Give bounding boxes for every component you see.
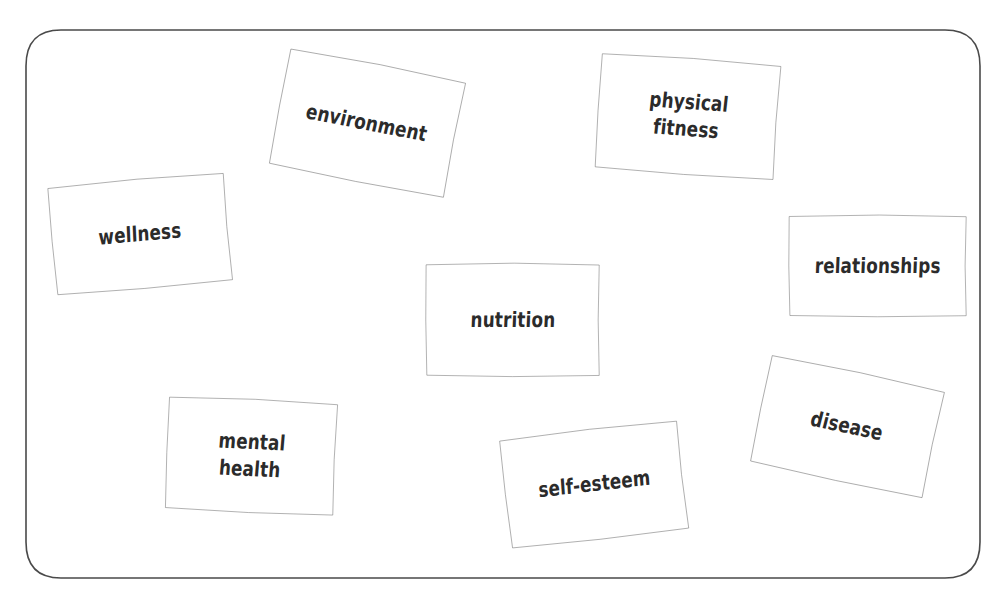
- node-label: relationships: [814, 254, 941, 278]
- node-environment[interactable]: environment: [266, 46, 468, 200]
- node-physical-fitness[interactable]: physical fitness: [592, 51, 783, 182]
- node-wellness[interactable]: wellness: [45, 170, 234, 297]
- node-nutrition[interactable]: nutrition: [424, 262, 601, 378]
- node-mental-health[interactable]: mental health: [163, 394, 340, 517]
- node-disease[interactable]: disease: [747, 353, 947, 501]
- node-self-esteem[interactable]: self-esteem: [497, 418, 691, 551]
- node-label: mental health: [215, 427, 287, 484]
- diagram-canvas: environment physical fitness wellness re…: [0, 0, 1002, 594]
- node-relationships[interactable]: relationships: [787, 214, 968, 318]
- node-label: nutrition: [470, 308, 556, 332]
- node-label: physical fitness: [645, 87, 730, 147]
